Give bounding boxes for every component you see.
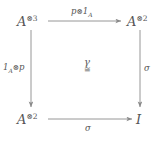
node-bottom-left-base: A (17, 112, 26, 127)
arrow-top-label: p⊗1A (71, 7, 93, 18)
node-bottom-right: I (136, 113, 141, 126)
arrow-right-label: σ (144, 64, 150, 73)
node-top-right-exponent: ⊗2 (136, 14, 147, 23)
node-top-left-base: A (17, 14, 26, 29)
arrow-top-label-subscript: A (88, 11, 92, 18)
node-top-right: A⊗2 (127, 15, 147, 28)
arrow-bottom-label: σ (85, 124, 91, 133)
arrow-left-label: 1A⊗p (3, 63, 25, 74)
node-top-left: A⊗3 (17, 15, 37, 28)
isomorphism-icon: ≅ (74, 66, 100, 74)
node-top-right-base: A (127, 14, 136, 29)
two-cell: γ ≅ (74, 57, 100, 74)
arrow-left-label-tail: p (19, 62, 24, 72)
node-bottom-left: A⊗2 (17, 113, 37, 126)
node-bottom-right-base: I (136, 112, 141, 127)
commutative-diagram: A⊗3 A⊗2 A⊗2 I p⊗1A 1A⊗p σ σ γ ≅ (0, 0, 168, 142)
node-top-left-exponent: ⊗3 (26, 14, 37, 23)
node-bottom-left-exponent: ⊗2 (26, 112, 37, 121)
